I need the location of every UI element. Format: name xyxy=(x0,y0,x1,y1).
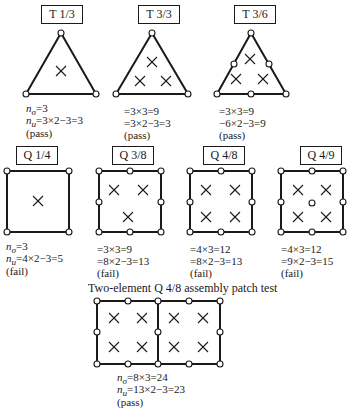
element-t13 xyxy=(26,33,96,94)
title-q48: Q 4/8 xyxy=(203,146,245,165)
t36-result: (pass) xyxy=(219,129,245,141)
q38-n-u: =8×2−3=13 xyxy=(97,255,149,267)
q49-n-u: =9×2−3=15 xyxy=(281,255,333,267)
integration-points xyxy=(33,54,331,352)
title-t33: T 3/3 xyxy=(138,5,180,24)
t36-n-u: −6×2−3=9 xyxy=(219,117,266,129)
q49-result: (fail) xyxy=(281,267,303,279)
t33-result: (pass) xyxy=(124,129,150,141)
t33-n-sigma: =3×3=9 xyxy=(124,105,159,117)
assembly-caption: Two-element Q 4/8 assembly patch test xyxy=(88,281,277,296)
q48-n-u: =8×2−3=13 xyxy=(190,255,242,267)
title-t36: T 3/6 xyxy=(234,5,276,24)
title-q49: Q 4/9 xyxy=(300,146,342,165)
q38-n-sigma: =3×3=9 xyxy=(97,243,132,255)
element-t36 xyxy=(217,33,286,94)
q49-n-sigma: =4×3=12 xyxy=(281,243,322,255)
title-q38: Q 3/8 xyxy=(112,146,154,165)
element-t33 xyxy=(116,33,188,94)
element-q38 xyxy=(99,171,161,232)
t33-n-u: =3×2−3=3 xyxy=(124,117,171,129)
title-q14: Q 1/4 xyxy=(16,146,58,165)
q38-result: (fail) xyxy=(97,267,119,279)
q14-result: (fail) xyxy=(6,265,28,277)
q48-n-sigma: =4×3=12 xyxy=(190,243,231,255)
title-t13: T 1/3 xyxy=(41,5,83,24)
t13-result: (pass) xyxy=(26,127,52,139)
t36-n-sigma: =3×3=9 xyxy=(219,105,254,117)
diagram-canvas xyxy=(0,0,355,409)
element-q48 xyxy=(190,171,252,232)
q48-result: (fail) xyxy=(190,267,212,279)
assembly-result: (pass) xyxy=(117,396,143,408)
